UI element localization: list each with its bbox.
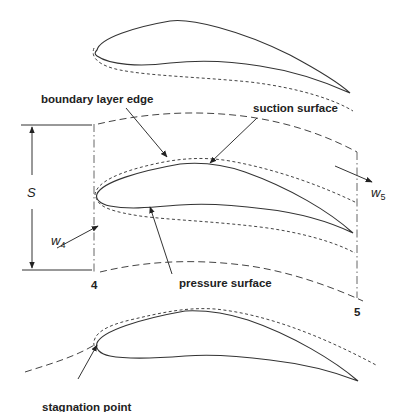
stagnation-streamline xyxy=(25,344,96,372)
middle-blade-profile xyxy=(97,163,353,233)
bottom-blade-profile xyxy=(97,311,358,381)
inlet-velocity-label: w4 xyxy=(51,233,65,250)
middle-blade-suction-boundary-layer xyxy=(95,158,357,203)
pitch-label: S xyxy=(27,185,36,200)
suction-surface-label: suction surface xyxy=(253,102,338,114)
middle-blade xyxy=(95,158,357,253)
outlet-velocity-arrow xyxy=(335,166,372,182)
inlet-velocity-subscript: 4 xyxy=(60,240,65,250)
cascade-diagram: boundary layer edge suction surface pres… xyxy=(0,0,404,412)
pressure-surface-leader xyxy=(150,207,172,274)
suction-surface-leader xyxy=(210,118,257,163)
stagnation-point-leader xyxy=(78,345,97,379)
outlet-velocity-subscript: 5 xyxy=(380,192,385,202)
outlet-station-label: 5 xyxy=(354,306,361,318)
outlet-velocity-label: w5 xyxy=(371,185,385,202)
bottom-blade xyxy=(25,309,376,381)
inlet-station-label: 4 xyxy=(91,279,98,291)
top-blade-profile xyxy=(95,21,350,93)
stagnation-point-label: stagnation point xyxy=(42,401,132,412)
pressure-surface-label: pressure surface xyxy=(179,277,272,289)
boundary-layer-edge-label: boundary layer edge xyxy=(41,93,153,105)
